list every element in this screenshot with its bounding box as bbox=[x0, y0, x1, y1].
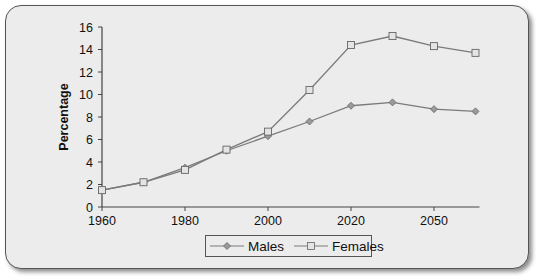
data-point-square bbox=[265, 128, 272, 135]
chart-legend: Males Females bbox=[205, 235, 372, 257]
data-point-square bbox=[389, 33, 396, 40]
legend-label-females: Females bbox=[332, 239, 384, 254]
legend-label-males: Males bbox=[248, 239, 284, 254]
y-tick-label: 4 bbox=[86, 156, 93, 170]
data-point-square bbox=[306, 87, 313, 94]
y-tick-label: 10 bbox=[79, 88, 93, 102]
diamond-marker-icon bbox=[210, 241, 244, 251]
y-tick-label: 16 bbox=[79, 21, 93, 35]
square-marker-icon bbox=[294, 241, 328, 251]
y-axis-title: Percentage bbox=[57, 83, 71, 150]
y-tick-label: 2 bbox=[86, 178, 93, 192]
series-line-males bbox=[102, 102, 476, 190]
data-point-diamond bbox=[472, 108, 479, 115]
data-point-square bbox=[348, 42, 355, 49]
data-point-square bbox=[182, 166, 189, 173]
series-line-females bbox=[102, 36, 476, 190]
x-tick-label: 1960 bbox=[88, 214, 116, 228]
legend-item-males: Males bbox=[210, 239, 284, 254]
data-point-diamond bbox=[348, 102, 355, 109]
y-tick-label: 8 bbox=[86, 111, 93, 125]
data-point-diamond bbox=[389, 99, 396, 106]
x-tick-label: 1980 bbox=[171, 214, 199, 228]
data-point-square bbox=[472, 49, 479, 56]
x-tick-label: 2020 bbox=[337, 214, 365, 228]
data-point-square bbox=[223, 146, 230, 153]
data-point-diamond bbox=[431, 106, 438, 113]
y-tick-label: 12 bbox=[79, 66, 93, 80]
data-point-square bbox=[431, 43, 438, 50]
data-point-square bbox=[99, 187, 106, 194]
x-tick-label: 2000 bbox=[254, 214, 282, 228]
y-tick-label: 14 bbox=[79, 43, 93, 57]
data-point-diamond bbox=[306, 118, 313, 125]
y-tick-label: 6 bbox=[86, 133, 93, 147]
x-tick-label: 2050 bbox=[420, 214, 448, 228]
y-tick-label: 0 bbox=[86, 201, 93, 215]
legend-item-females: Females bbox=[294, 239, 384, 254]
data-point-square bbox=[140, 179, 147, 186]
